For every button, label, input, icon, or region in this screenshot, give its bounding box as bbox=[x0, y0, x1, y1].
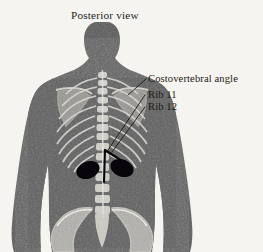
label-costovertebral-angle: Costovertebral angle bbox=[148, 73, 238, 84]
figure-title: Posterior view bbox=[71, 9, 139, 21]
label-rib-11: Rib 11 bbox=[148, 89, 177, 100]
figure-canvas: Posterior view Costovertebral angle Rib … bbox=[0, 0, 263, 252]
label-rib-12: Rib 12 bbox=[148, 101, 177, 112]
anatomical-figure: Posterior view Costovertebral angle Rib … bbox=[0, 0, 263, 252]
bone-texture bbox=[40, 74, 164, 250]
